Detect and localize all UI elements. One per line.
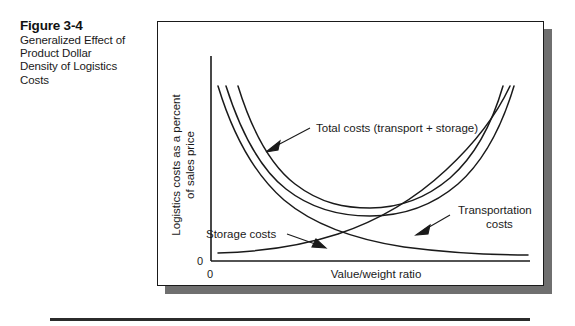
- transportation-costs-label-line-1: Transportation: [458, 204, 532, 216]
- figure-box: 0 0 Value/weight ratio Logistics costs a…: [157, 21, 544, 286]
- figure-title: Generalized Effect of Product Dollar Den…: [20, 34, 145, 87]
- x-axis-label: Value/weight ratio: [331, 268, 422, 280]
- storage-costs-label: Storage costs: [206, 228, 277, 240]
- y-axis-label: Logistics costs as a percent of sales pr…: [170, 94, 196, 236]
- figure-title-line-4: Costs: [20, 74, 145, 87]
- total-costs-label: Total costs (transport + storage): [316, 122, 478, 134]
- x-axis-origin-label: 0: [207, 268, 213, 280]
- y-axis-label-line-2: of sales price: [184, 131, 196, 199]
- figure-caption: Figure 3-4 Generalized Effect of Product…: [20, 18, 145, 87]
- y-axis-origin-label: 0: [197, 255, 203, 267]
- transportation-costs-label-line-2: costs: [486, 218, 513, 230]
- transportation-costs-label: Transportation costs: [458, 204, 532, 230]
- page-bottom-rule: [50, 318, 530, 321]
- chart-annotation-leaders: [266, 128, 450, 248]
- figure-title-line-1: Generalized Effect of: [20, 34, 145, 47]
- total-costs-leader-arrow: [266, 141, 280, 152]
- y-axis-label-line-1: Logistics costs as a percent: [170, 94, 182, 236]
- figure-title-line-2: Product Dollar: [20, 47, 145, 60]
- transportation-costs-leader-arrow: [416, 225, 430, 235]
- figure-title-line-3: Density of Logistics: [20, 60, 145, 73]
- figure-number: Figure 3-4: [20, 18, 145, 33]
- chart-plot: 0 0 Value/weight ratio Logistics costs a…: [158, 22, 542, 284]
